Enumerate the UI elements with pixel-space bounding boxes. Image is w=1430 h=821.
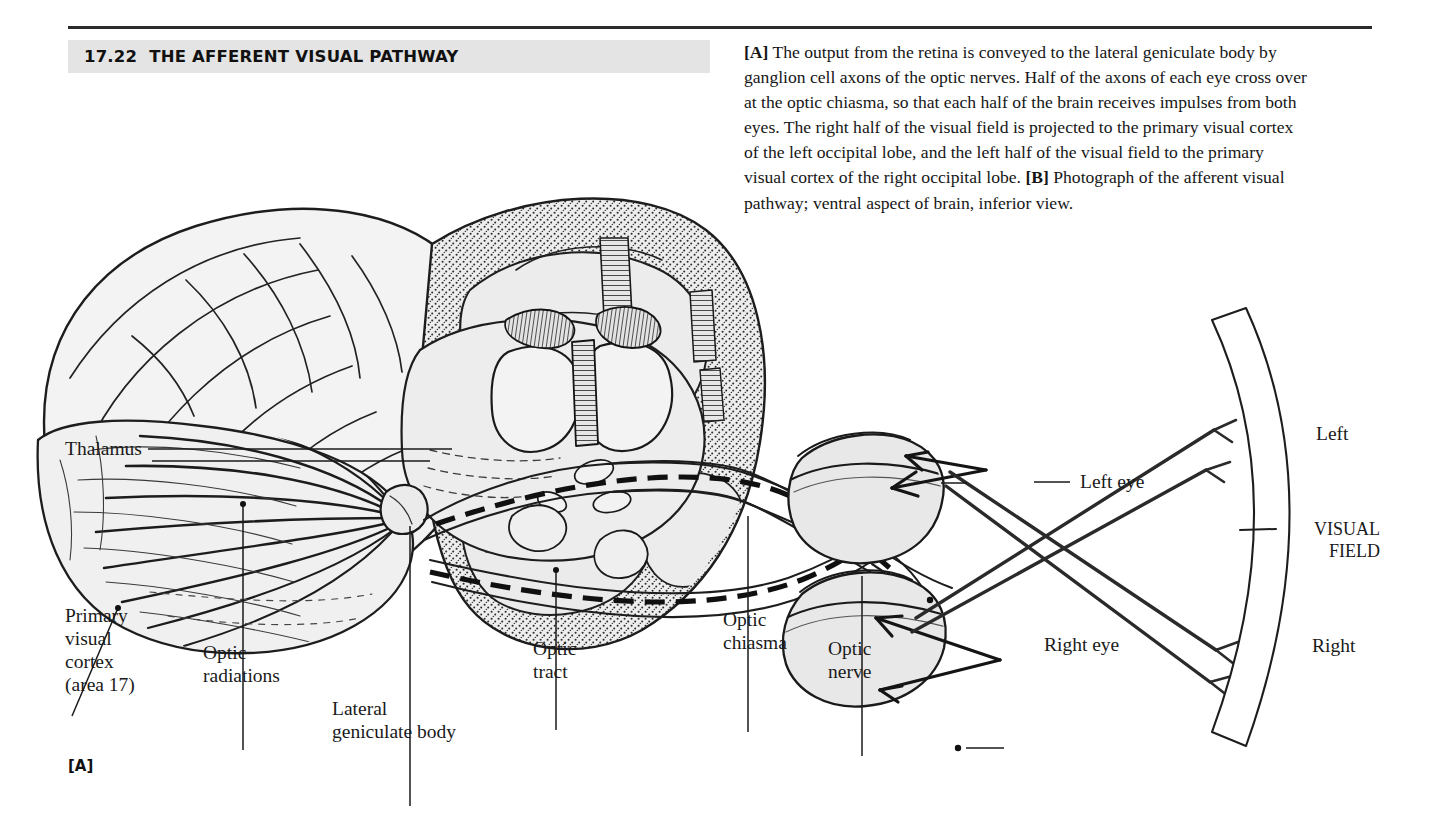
- label-thalamus: Thalamus: [65, 437, 142, 460]
- caption-part-a-tag: [A]: [744, 42, 768, 62]
- label-field-left: Left: [1316, 422, 1348, 445]
- label-optic-radiations: Optic radiations: [203, 641, 280, 687]
- label-left-eye: Left eye: [1080, 470, 1144, 493]
- panel-letter-a: [A]: [68, 757, 93, 775]
- figure-title: 17.22THE AFFERENT VISUAL PATHWAY: [84, 44, 704, 70]
- label-lateral-geniculate-body: Lateral geniculate body: [332, 697, 456, 743]
- basal-lobule: [509, 505, 566, 551]
- header-rule: [68, 26, 1372, 29]
- label-optic-tract: Optic tract: [533, 637, 576, 683]
- afferent-visual-pathway-diagram: [0, 120, 1430, 820]
- label-visual-field: VISUAL FIELD: [1266, 518, 1380, 562]
- ray-fork-marks: [1206, 420, 1238, 696]
- label-primary-visual-cortex: Primary visual cortex (area 17): [65, 604, 135, 696]
- label-optic-chiasma: Optic chiasma: [723, 608, 787, 654]
- basal-lobule-2: [594, 530, 647, 578]
- label-optic-nerve: Optic nerve: [828, 637, 871, 683]
- label-right-eye: Right eye: [1044, 633, 1119, 656]
- midline-hatch-band: [572, 340, 598, 446]
- figure-number: 17.22: [84, 47, 137, 66]
- figure-title-text: THE AFFERENT VISUAL PATHWAY: [149, 47, 458, 66]
- figure-page: 17.22THE AFFERENT VISUAL PATHWAY [A] The…: [0, 0, 1430, 821]
- cerebral-peduncle-left: [492, 347, 581, 452]
- label-field-right: Right: [1312, 634, 1355, 657]
